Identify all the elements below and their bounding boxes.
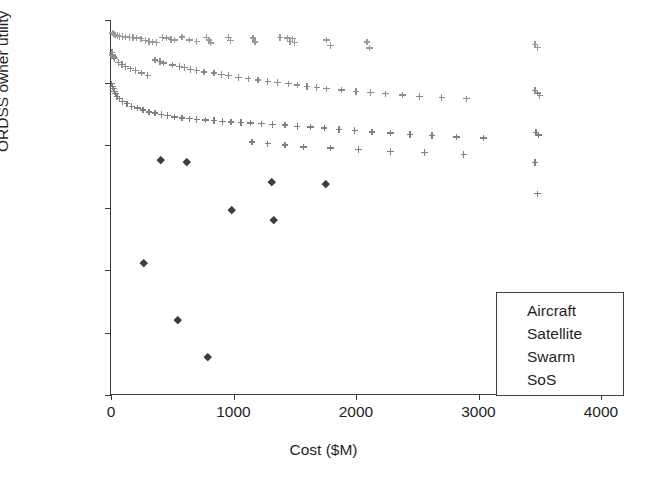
data-point-swarm — [140, 259, 148, 267]
data-point-satellite — [537, 92, 544, 99]
data-point-satellite — [314, 84, 321, 91]
data-point-sos — [407, 131, 414, 138]
plus-marker-icon — [506, 304, 522, 318]
diamond-marker-icon — [506, 350, 522, 364]
data-point-aircraft — [534, 44, 541, 51]
data-point-satellite — [181, 64, 188, 71]
data-point-sos — [321, 125, 328, 132]
data-point-sos — [265, 141, 272, 148]
data-point-satellite — [294, 82, 301, 89]
data-point-satellite — [338, 87, 345, 94]
data-point-satellite — [169, 62, 176, 69]
data-point-sos — [211, 117, 218, 124]
data-point-sos — [119, 98, 126, 105]
data-point-sos — [111, 88, 118, 95]
legend-symbol — [512, 355, 516, 359]
legend-item-sos[interactable]: SoS — [497, 368, 623, 391]
data-point-satellite — [132, 67, 139, 74]
data-point-aircraft — [142, 37, 149, 44]
data-point-sos — [282, 122, 289, 129]
data-point-satellite — [353, 88, 360, 95]
data-point-sos — [124, 101, 131, 108]
data-point-satellite — [416, 93, 423, 100]
data-point-aircraft — [327, 42, 334, 49]
x-tick-label: 4000 — [556, 403, 646, 421]
data-point-sos — [238, 119, 245, 126]
data-point-aircraft — [171, 37, 178, 44]
data-point-satellite — [110, 54, 117, 61]
data-point-sos — [535, 132, 542, 139]
legend-item-aircraft[interactable]: Aircraft — [497, 299, 623, 322]
data-point-sos — [258, 121, 265, 128]
data-point-aircraft — [153, 39, 160, 46]
data-point-sos — [179, 115, 186, 122]
x-tick-label: 2000 — [311, 403, 401, 421]
scatter-plot-figure: 0.9940.9950.9960.9970.9980.9991 01000200… — [0, 0, 647, 477]
data-point-aircraft — [208, 40, 215, 47]
data-point-swarm — [174, 316, 182, 324]
data-point-aircraft — [114, 32, 121, 39]
data-point-aircraft — [110, 31, 117, 38]
data-point-sos — [282, 142, 289, 149]
data-point-satellite — [109, 52, 116, 59]
data-point-satellite — [157, 58, 164, 65]
data-point-sos — [194, 116, 201, 123]
data-point-swarm — [204, 352, 212, 360]
legend-symbol — [512, 378, 515, 381]
data-point-sos — [534, 191, 541, 198]
y-tick — [105, 20, 111, 21]
data-point-aircraft — [109, 30, 116, 37]
data-point-sos — [247, 120, 254, 127]
data-point-sos — [461, 151, 468, 158]
data-point-sos — [453, 134, 460, 141]
data-point-satellite — [201, 69, 208, 76]
x-tick-label: 1000 — [189, 403, 279, 421]
data-point-sos — [112, 91, 119, 98]
data-point-sos — [140, 107, 147, 114]
legend-item-satellite[interactable]: Satellite — [497, 322, 623, 345]
legend-item-swarm[interactable]: Swarm — [497, 345, 623, 368]
data-point-sos — [387, 148, 394, 155]
data-point-aircraft — [149, 39, 156, 46]
data-point-sos — [249, 139, 256, 146]
data-point-satellite — [109, 49, 116, 56]
data-point-sos — [219, 118, 226, 125]
data-point-sos — [429, 132, 436, 139]
x-axis-label: Cost ($M) — [0, 441, 647, 459]
data-point-sos — [228, 119, 235, 126]
data-point-satellite — [194, 67, 201, 74]
data-point-aircraft — [112, 32, 119, 39]
data-point-aircraft — [225, 34, 232, 41]
legend-symbol — [512, 332, 515, 335]
data-point-satellite — [439, 94, 446, 101]
data-point-satellite — [176, 63, 183, 70]
data-point-sos — [387, 130, 394, 137]
data-point-satellite — [235, 74, 242, 81]
data-point-swarm — [182, 158, 190, 166]
data-point-aircraft — [289, 36, 296, 43]
data-point-aircraft — [179, 34, 186, 41]
data-point-satellite — [152, 57, 159, 64]
data-point-swarm — [228, 205, 236, 213]
data-point-satellite — [323, 86, 330, 93]
data-point-sos — [114, 93, 121, 100]
data-point-sos — [307, 124, 314, 131]
data-point-sos — [186, 116, 193, 123]
data-point-aircraft — [130, 34, 137, 41]
data-point-sos — [202, 117, 209, 124]
data-point-satellite — [255, 77, 262, 84]
x-tick-label: 0 — [66, 403, 156, 421]
data-point-aircraft — [532, 41, 539, 48]
data-point-satellite — [245, 76, 252, 83]
data-point-satellite — [399, 92, 406, 99]
data-point-sos — [300, 144, 307, 151]
data-point-aircraft — [116, 33, 123, 40]
y-tick — [105, 83, 111, 84]
data-point-sos — [152, 110, 159, 117]
plus-marker-icon — [506, 373, 522, 387]
data-point-aircraft — [323, 37, 330, 44]
data-point-sos — [134, 105, 141, 112]
data-point-satellite — [160, 60, 167, 67]
data-point-sos — [129, 103, 136, 110]
data-point-sos — [110, 86, 117, 93]
